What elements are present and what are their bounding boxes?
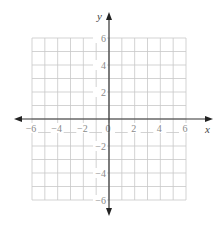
y-tick-label: −2 bbox=[95, 141, 106, 152]
x-tick-label: 2 bbox=[131, 123, 136, 134]
y-tick-label: 6 bbox=[101, 33, 106, 44]
y-tick-label: −6 bbox=[95, 195, 106, 206]
y-tick-label: 4 bbox=[101, 60, 106, 71]
coordinate-plane: −6−4−20246 642−2−4−6 x y bbox=[0, 0, 221, 229]
x-tick-label: −4 bbox=[51, 123, 62, 134]
y-tick-label: −4 bbox=[95, 168, 106, 179]
x-axis-left-arrow-icon bbox=[14, 116, 22, 122]
x-tick-label: −6 bbox=[26, 123, 37, 134]
y-axis-up-arrow-icon bbox=[106, 12, 112, 20]
x-axis-right-arrow-icon bbox=[205, 116, 213, 122]
y-tick-label: 2 bbox=[101, 87, 106, 98]
x-tick-label: 0 bbox=[106, 123, 111, 134]
x-axis-label: x bbox=[204, 123, 210, 135]
x-tick-label: 4 bbox=[157, 123, 162, 134]
y-axis-down-arrow-icon bbox=[106, 208, 112, 216]
x-tick-label: −2 bbox=[77, 123, 88, 134]
x-tick-label: 6 bbox=[183, 123, 188, 134]
y-axis-label: y bbox=[96, 10, 102, 22]
